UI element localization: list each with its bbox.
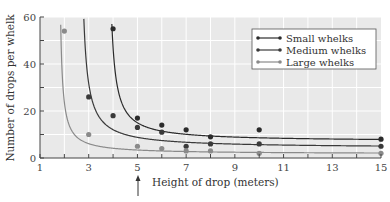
legend: Small whelksMedium whelksLarge whelks — [252, 29, 376, 69]
x-tick-label: 15 — [375, 162, 388, 173]
data-point — [135, 144, 140, 149]
x-tick-label: 9 — [232, 162, 238, 173]
arrow-up-icon — [136, 175, 141, 196]
y-tick-label: 40 — [23, 59, 36, 70]
data-point — [86, 94, 91, 99]
y-tick-label: 0 — [30, 153, 36, 164]
data-point — [208, 148, 213, 153]
data-point — [159, 130, 164, 135]
x-tick-label: 13 — [326, 162, 339, 173]
x-tick-label: 11 — [277, 162, 290, 173]
data-point — [208, 141, 213, 146]
data-point — [86, 132, 91, 137]
data-point — [110, 26, 115, 31]
x-tick-label: 1 — [37, 162, 43, 173]
legend-item-label: Medium whelks — [286, 45, 366, 56]
data-point — [159, 123, 164, 128]
x-tick-label: 3 — [86, 162, 92, 173]
data-point — [62, 29, 67, 34]
data-point — [208, 134, 213, 139]
x-axis-title: Height of drop (meters) — [152, 176, 279, 188]
x-tick-label: 7 — [183, 162, 189, 173]
data-point — [257, 127, 262, 132]
data-point — [184, 127, 189, 132]
data-point — [257, 141, 262, 146]
legend-item-label: Small whelks — [286, 33, 353, 44]
chart: 13579111315 0204060 Number of drops per … — [0, 0, 390, 202]
data-point — [159, 146, 164, 151]
legend-item-label: Large whelks — [286, 57, 354, 68]
data-point — [135, 125, 140, 130]
y-tick-label: 20 — [23, 106, 36, 117]
data-point — [378, 137, 383, 142]
data-point — [135, 115, 140, 120]
data-point — [110, 113, 115, 118]
y-tick-label: 60 — [23, 12, 36, 23]
data-point — [184, 144, 189, 149]
data-point — [378, 144, 383, 149]
x-tick-label: 5 — [134, 162, 140, 173]
data-point — [184, 148, 189, 153]
y-axis-title: Number of drops per whelk — [4, 14, 16, 162]
